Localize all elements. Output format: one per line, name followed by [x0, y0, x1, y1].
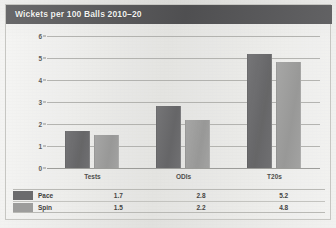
- legend-value-pace-odis: 2.8: [160, 192, 243, 199]
- scanned-page: Wickets per 100 Balls 2010–20 0123456 Te…: [0, 0, 336, 228]
- chart-title-bar: Wickets per 100 Balls 2010–20: [6, 5, 332, 24]
- y-tick-mark-4: [43, 80, 46, 81]
- bar-group-odis: ODIs: [138, 36, 229, 168]
- bar-spin-tests: [94, 135, 119, 168]
- bar-group-tests: Tests: [47, 36, 138, 168]
- legend-value-spin-odis: 2.2: [160, 204, 243, 211]
- legend-value-pace-tests: 1.7: [77, 192, 160, 199]
- legend-series-name: Spin: [33, 204, 77, 211]
- y-tick-mark-6: [43, 36, 46, 37]
- legend-swatch-pace: [13, 191, 33, 200]
- y-tick-mark-3: [43, 102, 46, 103]
- y-axis-tick-label: 5: [38, 55, 42, 62]
- bar-group-t20s: T20s: [229, 36, 320, 168]
- y-tick-mark-5: [43, 58, 46, 59]
- legend-data-table: Pace1.72.85.2Spin1.52.24.8: [13, 189, 325, 213]
- legend-value-spin-t20s: 4.8: [242, 204, 325, 211]
- gridline-0: [47, 168, 320, 169]
- y-axis-tick-label: 2: [38, 121, 42, 128]
- y-axis-tick-label: 6: [38, 33, 42, 40]
- plot-inner: 0123456 TestsODIsT20s: [47, 36, 320, 168]
- y-tick-mark-2: [43, 124, 46, 125]
- legend-value-pace-t20s: 5.2: [242, 192, 325, 199]
- chart-figure: Wickets per 100 Balls 2010–20 0123456 Te…: [5, 4, 331, 220]
- legend-value-spin-tests: 1.5: [77, 204, 160, 211]
- y-axis-tick-label: 3: [38, 99, 42, 106]
- legend-series-name: Pace: [33, 192, 77, 199]
- y-axis-tick-label: 1: [38, 143, 42, 150]
- legend-row-spin: Spin1.52.24.8: [13, 202, 325, 213]
- bar-pace-odis: [156, 106, 181, 168]
- x-axis-category-label: T20s: [229, 173, 320, 180]
- bar-pace-tests: [65, 131, 90, 168]
- legend-swatch-spin: [13, 203, 33, 212]
- y-axis-tick-label: 4: [38, 77, 42, 84]
- bar-groups: TestsODIsT20s: [47, 36, 320, 168]
- bar-spin-odis: [185, 120, 210, 168]
- x-axis-category-label: Tests: [47, 173, 138, 180]
- page-title: Wickets per 100 Balls 2010–20: [15, 9, 142, 19]
- bar-pace-t20s: [247, 54, 272, 168]
- y-axis-tick-label: 0: [38, 165, 42, 172]
- bar-spin-t20s: [276, 62, 301, 168]
- legend-row-pace: Pace1.72.85.2: [13, 190, 325, 202]
- plot-area: 0123456 TestsODIsT20s: [6, 24, 332, 184]
- x-axis-category-label: ODIs: [138, 173, 229, 180]
- y-tick-mark-0: [43, 168, 46, 169]
- y-tick-mark-1: [43, 146, 46, 147]
